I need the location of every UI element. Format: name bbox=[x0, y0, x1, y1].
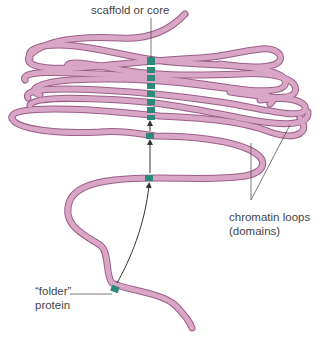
folder-protein-label-line2: protein bbox=[35, 298, 71, 312]
folder-protein-label: “folder” protein bbox=[35, 284, 71, 312]
scaffold-label: scaffold or core bbox=[91, 3, 169, 17]
scaffold-core bbox=[147, 57, 155, 120]
chromatin-loops-label-line1: chromatin loops bbox=[229, 210, 310, 224]
chromatin-loops-label-line2: (domains) bbox=[229, 224, 310, 238]
folder-protein-label-line1: “folder” bbox=[35, 284, 71, 298]
chromatin-loops-label: chromatin loops (domains) bbox=[229, 210, 310, 238]
folder-protein bbox=[110, 133, 154, 293]
chromatin-fiber bbox=[12, 14, 308, 328]
assembly-arrows bbox=[117, 123, 150, 283]
